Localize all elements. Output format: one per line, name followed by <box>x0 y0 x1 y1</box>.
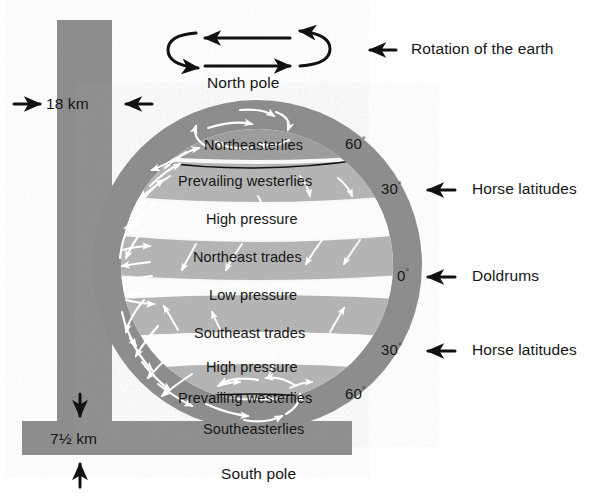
band-label-southeast-trades: Southeast trades <box>194 325 305 341</box>
callout-horse-latitudes-north: Horse latitudes <box>472 180 577 198</box>
degree-symbol-60n: ° <box>362 135 366 145</box>
band-label-northeast-trades: Northeast trades <box>193 249 302 265</box>
latitude-60-north: 60° <box>345 135 366 152</box>
latitude-60-south: 60° <box>345 385 366 402</box>
south-pole-label: South pole <box>221 465 296 483</box>
band-label-prevailing-westerlies-north: Prevailing westerlies <box>178 173 312 189</box>
band-label-high-pressure-north: High pressure <box>206 211 298 227</box>
bottom-thickness-label: 7½ km <box>50 430 97 448</box>
degree-symbol-30s: ° <box>398 341 402 351</box>
rotation-label: Rotation of the earth <box>411 40 554 58</box>
band-label-high-pressure-south: High pressure <box>206 359 298 375</box>
degree-symbol-0: ° <box>405 267 409 277</box>
latitude-60-north-value: 60 <box>345 135 362 152</box>
latitude-30-north-value: 30 <box>381 180 398 197</box>
latitude-0: 0° <box>397 267 409 284</box>
diagram-canvas: Rotation of the earth North pole South p… <box>0 0 601 503</box>
latitude-30-south-value: 30 <box>381 341 398 358</box>
rotation-hook-left <box>168 33 198 68</box>
latitude-30-north: 30° <box>381 180 402 197</box>
band-label-low-pressure: Low pressure <box>209 287 297 303</box>
top-thickness-label: 18 km <box>46 95 89 113</box>
callout-doldrums: Doldrums <box>472 267 539 285</box>
callout-horse-latitudes-south: Horse latitudes <box>472 341 577 359</box>
degree-symbol-30n: ° <box>398 180 402 190</box>
latitude-30-south: 30° <box>381 341 402 358</box>
band-label-northeasterlies: Northeasterlies <box>204 137 303 153</box>
rotation-indicator <box>168 31 330 68</box>
rotation-hook-right <box>300 31 330 66</box>
degree-symbol-60s: ° <box>362 385 366 395</box>
band-label-prevailing-westerlies-south: Prevailing westerlies <box>178 390 312 406</box>
band-label-southeasterlies: Southeasterlies <box>203 421 304 437</box>
latitude-60-south-value: 60 <box>345 385 362 402</box>
north-pole-label: North pole <box>207 74 280 92</box>
